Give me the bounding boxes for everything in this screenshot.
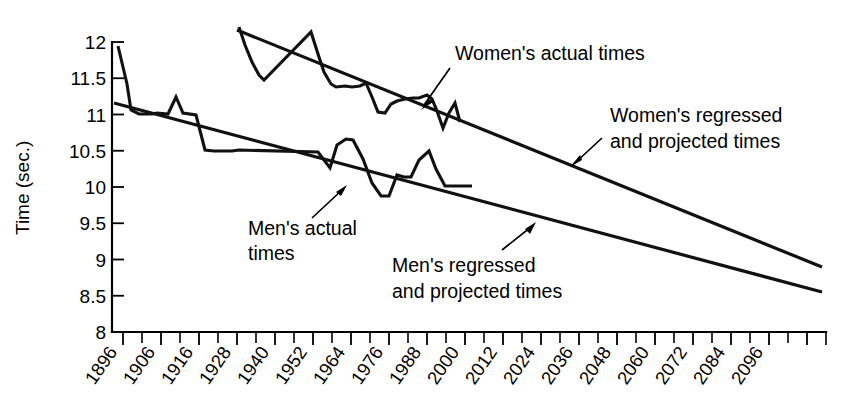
x-axis-tick-labels: 1896 1906 1916 1928 1940 1952 1964 1976 … — [80, 342, 767, 388]
x-tick-label: 2036 — [536, 342, 577, 388]
y-tick-label: 10.5 — [69, 141, 106, 162]
annotation-womens-regressed-line-1: Women's regressed — [610, 104, 782, 126]
x-tick-label: 1976 — [346, 342, 387, 388]
annotation-mens-actual-leader — [312, 185, 347, 218]
x-tick-label: 2024 — [498, 342, 539, 388]
x-tick-label: 2096 — [726, 342, 767, 388]
chart-container: Time (sec.) 12 11.5 11 10.5 10 9.5 9 8.5 — [0, 0, 844, 410]
annotation-mens-actual-line-1: Men's actual — [248, 217, 357, 239]
annotation-mens-regressed-line-2: and projected times — [392, 280, 562, 302]
x-tick-label: 1940 — [232, 342, 273, 388]
womens-actual-series — [239, 27, 460, 128]
y-tick-label: 9.5 — [80, 213, 106, 234]
x-tick-label: 1916 — [156, 342, 197, 388]
annotation-womens-regressed-leader — [570, 138, 602, 167]
y-tick-label: 8.5 — [80, 286, 106, 307]
x-tick-label: 2072 — [650, 342, 691, 388]
y-axis-tick-labels: 12 11.5 11 10.5 10 9.5 9 8.5 8 — [69, 32, 106, 343]
x-tick-label: 1988 — [384, 342, 425, 388]
y-axis-ticks — [112, 42, 124, 332]
x-tick-label: 2084 — [688, 342, 729, 388]
y-tick-label: 11.5 — [70, 68, 106, 89]
x-tick-label: 1952 — [270, 342, 311, 388]
race-times-projection-chart: Time (sec.) 12 11.5 11 10.5 10 9.5 9 8.5 — [0, 0, 844, 410]
x-tick-label: 1896 — [80, 342, 121, 388]
x-tick-label: 1964 — [308, 342, 349, 388]
annotation-mens-actual-line-2: times — [248, 242, 295, 264]
x-tick-label: 1928 — [194, 342, 235, 388]
y-tick-label: 10 — [85, 177, 106, 198]
annotation-womens-actual-line-1: Women's actual times — [455, 42, 645, 64]
x-tick-label: 2048 — [574, 342, 615, 388]
x-tick-label: 2060 — [612, 342, 653, 388]
mens-actual-series — [118, 46, 472, 196]
x-tick-label: 2000 — [422, 342, 463, 388]
y-axis-title: Time (sec.) — [12, 141, 33, 235]
y-tick-label: 9 — [95, 250, 106, 271]
x-axis-ticks — [123, 332, 826, 345]
annotation-mens-regressed-line-1: Men's regressed — [392, 254, 536, 276]
x-tick-label: 2012 — [460, 342, 501, 388]
y-tick-label: 12 — [85, 32, 106, 53]
y-tick-label: 11 — [86, 105, 106, 126]
annotation-womens-regressed-line-2: and projected times — [610, 130, 780, 152]
y-tick-label: 8 — [95, 322, 106, 343]
x-tick-label: 1906 — [118, 342, 159, 388]
annotation-mens-regressed-leader — [502, 222, 536, 250]
